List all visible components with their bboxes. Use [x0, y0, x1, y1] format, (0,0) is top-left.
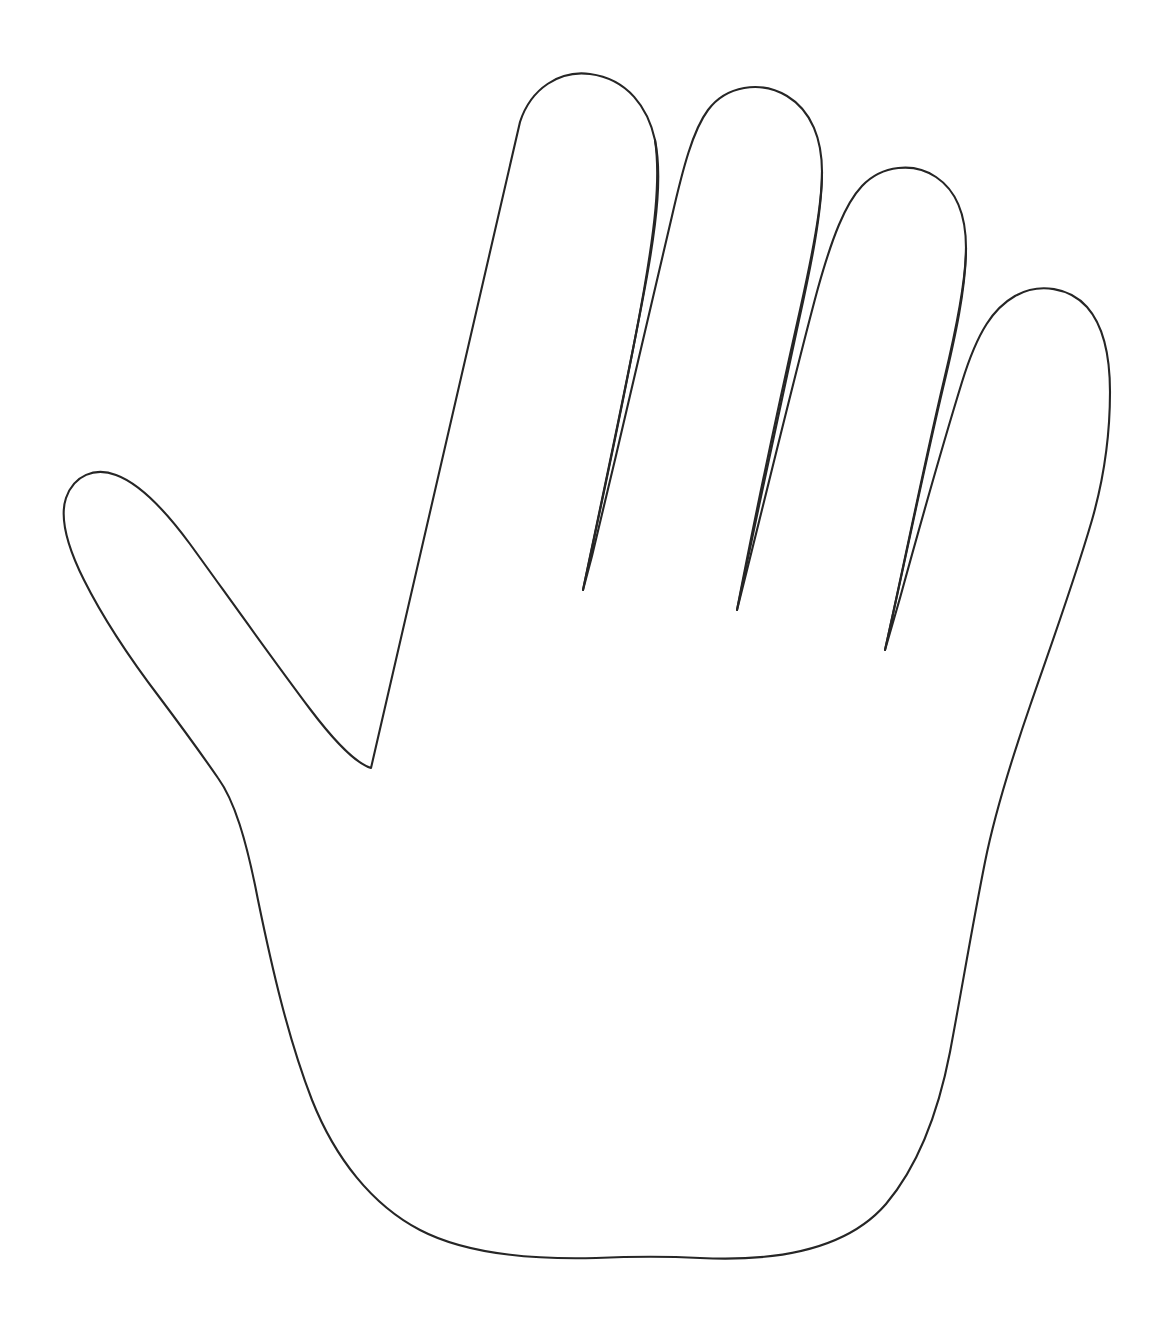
canvas-background [0, 0, 1168, 1330]
hand-outline-canvas [0, 0, 1168, 1330]
page-root [0, 0, 1168, 1330]
